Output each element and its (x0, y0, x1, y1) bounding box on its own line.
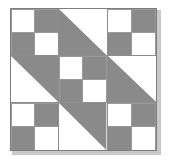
patch-top-right (131, 103, 156, 127)
half-square-triangle (59, 9, 106, 55)
patch-bottom-right (131, 32, 156, 56)
patch-top-right (34, 9, 59, 33)
patch-top-right (131, 9, 156, 33)
quilt-cell-top-right (108, 9, 156, 56)
quilt-cell-top-center (59, 9, 107, 56)
four-patch (59, 56, 106, 102)
patch-top-left (59, 56, 83, 80)
half-square-triangle (108, 56, 156, 102)
half-square-triangle (11, 56, 58, 102)
quilt-block-grid (10, 8, 157, 151)
quilt-cell-middle-right (108, 56, 156, 103)
quilt-cell-middle-left (11, 56, 59, 103)
patch-bottom-left (108, 126, 133, 150)
patch-top-right (82, 56, 107, 80)
patch-top-right (34, 103, 59, 127)
four-patch (108, 103, 156, 150)
patch-bottom-left (108, 32, 133, 56)
patch-top-left (108, 103, 133, 127)
patch-top-left (108, 9, 133, 33)
patch-top-left (11, 103, 35, 127)
patch-bottom-right (34, 32, 59, 56)
four-patch (108, 9, 156, 55)
patch-bottom-right (82, 79, 107, 103)
quilt-cell-center (59, 56, 107, 103)
patch-bottom-left (11, 126, 35, 150)
patch-bottom-left (11, 32, 35, 56)
quilt-block-figure (0, 0, 170, 161)
patch-bottom-right (34, 126, 59, 150)
patch-top-left (11, 9, 35, 33)
patch-bottom-right (131, 126, 156, 150)
half-square-triangle (59, 103, 106, 150)
four-patch (11, 103, 58, 150)
quilt-cell-bottom-right (108, 103, 156, 150)
patch-bottom-left (59, 79, 83, 103)
quilt-cell-top-left (11, 9, 59, 56)
quilt-cell-bottom-center (59, 103, 107, 150)
quilt-cell-bottom-left (11, 103, 59, 150)
four-patch (11, 9, 58, 55)
